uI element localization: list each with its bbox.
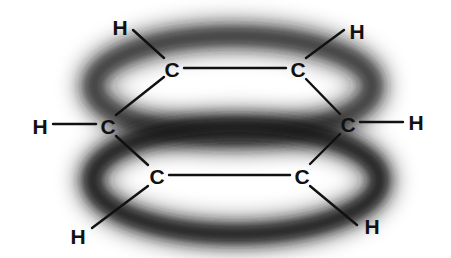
hydrogen-atom-h2: H [349, 20, 364, 43]
hydrogen-atom-h3: H [408, 111, 423, 134]
carbon-atom-c5: C [149, 165, 164, 188]
carbon-atom-c2: C [290, 58, 305, 81]
hydrogen-atom-h6: H [32, 115, 47, 138]
hydrogen-atom-h4: H [364, 215, 379, 238]
carbon-atom-c4: C [294, 165, 309, 188]
carbon-atom-c6: C [100, 115, 115, 138]
hydrogen-atom-h1: H [112, 16, 127, 39]
carbon-atom-c1: C [164, 58, 179, 81]
benzene-diagram: CCCCCCHHHHHH [0, 0, 451, 258]
carbon-atom-c3: C [340, 113, 355, 136]
hydrogen-atom-h5: H [70, 225, 85, 248]
